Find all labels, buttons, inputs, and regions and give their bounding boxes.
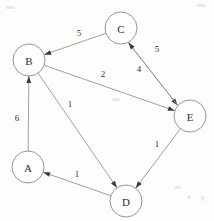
node-label-d: D — [122, 196, 130, 208]
arrowhead — [136, 181, 142, 188]
arrowhead — [111, 181, 117, 188]
graph-diagram-canvas: ABCDE 55421611 — [0, 0, 214, 221]
node-d[interactable]: D — [110, 185, 142, 217]
arrowhead — [26, 76, 31, 83]
node-label-b: B — [25, 55, 32, 67]
node-a[interactable]: A — [12, 151, 44, 183]
node-label-a: A — [24, 162, 32, 174]
arrowhead — [44, 50, 51, 55]
edge-weight-e-d: 1 — [155, 139, 160, 149]
edge-e-to-d — [136, 129, 181, 188]
node-label-c: C — [117, 23, 124, 35]
edge-b-to-e — [44, 65, 175, 110]
edge-a-to-b — [26, 76, 31, 151]
node-e[interactable]: E — [174, 100, 206, 132]
node-c[interactable]: C — [105, 12, 137, 44]
edge-weight-e-c: 4 — [137, 64, 142, 74]
node-b[interactable]: B — [13, 44, 45, 76]
edge-weight-c-e: 5 — [155, 44, 160, 54]
arrowhead — [43, 172, 50, 177]
edge-c-to-b — [44, 33, 106, 54]
nodes-layer: ABCDE — [12, 12, 206, 217]
edge-weight-b-d: 1 — [68, 99, 73, 109]
edge-weight-a-b: 6 — [15, 113, 20, 123]
arrowhead — [167, 106, 174, 111]
graph-svg: ABCDE 55421611 — [0, 0, 214, 221]
edge-e-to-c — [128, 43, 177, 106]
node-label-e: E — [187, 111, 194, 123]
edge-weight-b-e: 2 — [101, 69, 106, 79]
edges-layer — [26, 33, 180, 195]
arrowhead — [128, 43, 134, 50]
edge-weight-d-a: 1 — [75, 169, 80, 179]
edge-weight-c-b: 5 — [77, 28, 82, 38]
